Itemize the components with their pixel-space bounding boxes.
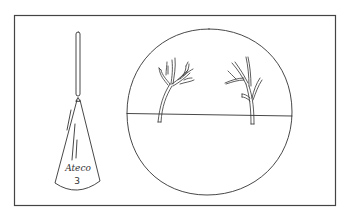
tip-brand-label: Ateco (60, 163, 96, 173)
tip-highlight-1 (72, 124, 75, 160)
tip-size-number: 3 (70, 176, 84, 186)
left-branch (158, 58, 194, 122)
illustration-canvas (0, 0, 345, 216)
tip-highlight-3 (67, 110, 71, 130)
tip-highlight-2 (76, 140, 77, 158)
plate (127, 29, 292, 195)
frame-border (15, 16, 336, 206)
horizon-line (127, 114, 292, 117)
tip-stem (76, 32, 80, 96)
plate-circle (127, 29, 292, 195)
right-branch (225, 57, 262, 124)
